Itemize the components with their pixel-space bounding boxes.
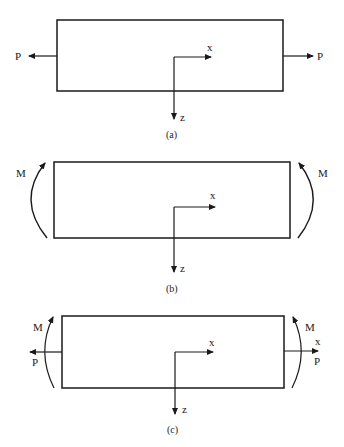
left-force-label: P xyxy=(15,50,21,62)
x-axis-label: x xyxy=(207,41,213,53)
left-force-label: P xyxy=(32,356,38,368)
x-axis-label: x xyxy=(209,336,215,348)
right-moment-label: M xyxy=(318,167,328,179)
right-moment-arrow-icon xyxy=(298,163,313,238)
panel-c: M P M x P x z (c) xyxy=(30,316,321,436)
x-axis-label: x xyxy=(210,189,216,201)
z-axis-label: z xyxy=(182,403,187,415)
z-axis-label: z xyxy=(180,262,185,274)
right-moment-arrow-icon xyxy=(292,317,301,388)
panel-a: P P x z (a) xyxy=(15,20,323,141)
caption-c: (c) xyxy=(167,424,178,436)
caption-b: (b) xyxy=(166,283,178,295)
right-force-label: P xyxy=(314,355,320,367)
right-force-label: P xyxy=(317,50,323,62)
beam-a xyxy=(57,20,283,91)
panel-b: M M x z (b) xyxy=(16,162,328,295)
beam-loading-diagram: P P x z (a) M M x z (b) M P M x P x z xyxy=(0,0,344,447)
right-axis-x-label: x xyxy=(315,335,321,347)
caption-a: (a) xyxy=(166,129,177,141)
left-moment-arrow-icon xyxy=(31,163,47,238)
beam-b xyxy=(54,162,290,238)
right-moment-label: M xyxy=(305,321,315,333)
beam-c xyxy=(62,316,284,388)
z-axis-label: z xyxy=(180,111,185,123)
left-moment-label: M xyxy=(33,321,43,333)
left-moment-label: M xyxy=(16,167,26,179)
